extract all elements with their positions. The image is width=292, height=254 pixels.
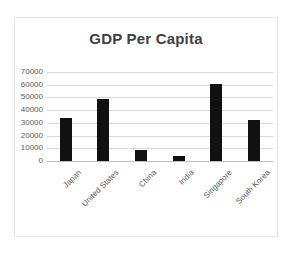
x-tick-label: China	[137, 168, 158, 189]
bar[interactable]	[60, 118, 72, 161]
x-tick-label: Singapore	[202, 168, 234, 200]
bar-slot	[85, 72, 123, 161]
y-tick-label: 20000	[21, 132, 43, 140]
y-tick-label: 50000	[21, 93, 43, 101]
plot-area: 700006000050000400003000020000100000 Jap…	[47, 72, 273, 161]
bar[interactable]	[248, 120, 260, 161]
x-tick-label: South Korea	[234, 168, 272, 206]
bar[interactable]	[97, 99, 109, 161]
x-label-slot: India	[160, 164, 198, 165]
x-tick-label: India	[177, 168, 196, 187]
x-label-slot: Singapore	[198, 164, 236, 165]
x-label-slot: South Korea	[235, 164, 273, 165]
bar[interactable]	[135, 150, 147, 161]
gridline-0	[47, 161, 273, 162]
x-tick-label: United States	[80, 168, 120, 208]
y-tick-label: 70000	[21, 68, 43, 76]
bar-slot	[47, 72, 85, 161]
bar[interactable]	[173, 156, 185, 161]
chart-title: GDP Per Capita	[15, 30, 277, 47]
x-label-slot: China	[122, 164, 160, 165]
y-tick-label: 30000	[21, 119, 43, 127]
x-tick-label: Japan	[61, 168, 83, 190]
bar-series	[47, 72, 273, 161]
chart-frame: GDP Per Capita 7000060000500004000030000…	[14, 17, 278, 237]
bar-slot	[160, 72, 198, 161]
y-tick-label: 10000	[21, 144, 43, 152]
y-tick-label: 40000	[21, 106, 43, 114]
bar-slot	[235, 72, 273, 161]
bar-slot	[198, 72, 236, 161]
x-label-slot: Japan	[47, 164, 85, 165]
bar-slot	[122, 72, 160, 161]
bar[interactable]	[210, 84, 222, 161]
y-tick-label: 60000	[21, 81, 43, 89]
x-label-slot: United States	[85, 164, 123, 165]
y-tick-label: 0	[39, 157, 43, 165]
